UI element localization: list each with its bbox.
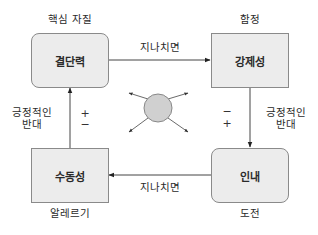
edge-label-right-line1: 긍정적인 (256, 106, 316, 118)
box-pitfall: 강제성 (211, 33, 289, 88)
box-label: 인내 (240, 168, 260, 184)
center-circle (144, 94, 172, 122)
edge-label-right-line2: 반대 (256, 118, 316, 130)
box-core-quality: 결단력 (31, 33, 109, 88)
sign-right-bottom: + (222, 118, 232, 129)
sign-right-top: − (222, 106, 232, 117)
edge-label-top: 지나치면 (130, 41, 190, 53)
edge-label-left-line1: 긍정적인 (2, 106, 62, 118)
edge-label-bottom: 지나치면 (130, 181, 190, 193)
sign-left-bottom: − (80, 119, 90, 130)
box-challenge: 인내 (211, 148, 289, 203)
core-quadrant-diagram: 핵심 자질 함정 알레르기 도전 결단력 강제성 수동성 인내 지나치면 지나치… (0, 0, 318, 235)
box-label: 결단력 (55, 53, 85, 69)
edge-label-left-line2: 반대 (2, 118, 62, 130)
box-allergy: 수동성 (31, 148, 109, 203)
caption-top-left: 핵심 자질 (45, 13, 95, 25)
caption-top-right: 함정 (225, 13, 275, 25)
caption-bottom-right: 도전 (225, 207, 275, 219)
box-label: 수동성 (55, 168, 85, 184)
caption-bottom-left: 알레르기 (45, 207, 95, 219)
box-label: 강제성 (235, 53, 265, 69)
